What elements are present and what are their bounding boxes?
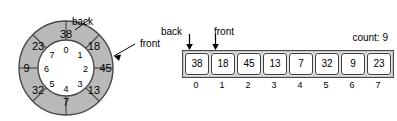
array-index: 1 <box>209 80 235 90</box>
array-cell: 38 <box>185 53 209 75</box>
ring-slot-value: 38 <box>60 28 72 40</box>
ring-slot-value: 23 <box>32 40 44 52</box>
array-cell: 7 <box>289 53 313 75</box>
ring-slot-index: 3 <box>77 79 82 89</box>
ring-graphic: 38 18 45 13 7 32 9 23 0 1 2 3 4 5 6 7 <box>14 16 136 120</box>
array-cell: 32 <box>315 53 339 75</box>
array-cell: 9 <box>341 53 365 75</box>
ring-slot-index: 7 <box>49 50 54 60</box>
array-index: 4 <box>287 80 313 90</box>
array-track: 38 18 45 13 7 32 9 23 <box>182 50 394 78</box>
array-cell: 23 <box>367 53 391 75</box>
ring-slot-index: 1 <box>77 50 82 60</box>
ring-slot-value: 7 <box>63 96 69 108</box>
linear-array-diagram: count: 9 back front 38 18 45 13 7 32 9 2… <box>150 26 390 96</box>
ring-slot-index: 4 <box>63 84 68 94</box>
ring-slot-value: 13 <box>88 84 100 96</box>
array-cell: 45 <box>237 53 261 75</box>
back-arrow-icon <box>185 34 194 50</box>
ring-slot-index: 6 <box>44 64 49 74</box>
array-index: 7 <box>365 80 391 90</box>
ring-slot-index: 0 <box>63 45 68 55</box>
ring-slot-value: 32 <box>32 84 44 96</box>
array-index: 2 <box>235 80 261 90</box>
ring-slot-index: 2 <box>83 64 88 74</box>
ring-slot-value: 9 <box>23 62 29 74</box>
ring-slot-value: 18 <box>88 40 100 52</box>
array-index: 5 <box>313 80 339 90</box>
ring-slot-index: 5 <box>49 79 54 89</box>
array-index: 6 <box>339 80 365 90</box>
array-cell: 13 <box>263 53 287 75</box>
array-cell: 18 <box>211 53 235 75</box>
ring-back-label: back <box>72 16 93 27</box>
array-back-label: back <box>161 26 182 37</box>
array-index-row: 0 1 2 3 4 5 6 7 <box>182 80 392 90</box>
array-index: 0 <box>183 80 209 90</box>
circular-queue-diagram: 38 18 45 13 7 32 9 23 0 1 2 3 4 5 6 7 ba… <box>14 16 136 120</box>
diagram-canvas: 38 18 45 13 7 32 9 23 0 1 2 3 4 5 6 7 ba… <box>0 0 397 121</box>
ring-front-leader <box>114 44 135 56</box>
count-label: count: 9 <box>352 32 388 43</box>
ring-slot-value: 45 <box>99 62 111 74</box>
front-arrow-icon <box>211 34 220 50</box>
array-index: 3 <box>261 80 287 90</box>
